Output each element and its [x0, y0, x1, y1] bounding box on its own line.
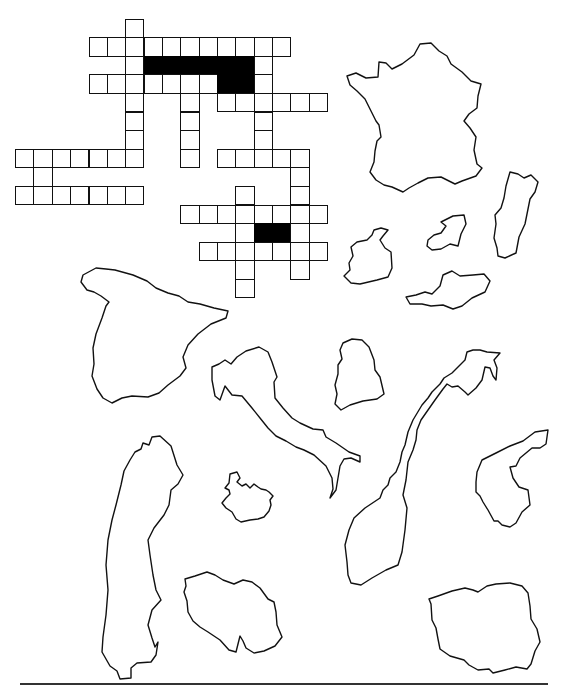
crossword-cell[interactable]: [125, 56, 144, 76]
crossword-cell[interactable]: [162, 74, 181, 94]
crossword-cell[interactable]: [254, 56, 273, 76]
crossword-cell[interactable]: [290, 186, 309, 206]
crossword-cell[interactable]: [52, 149, 71, 169]
crossword-cell[interactable]: [254, 93, 273, 113]
crossword-cell[interactable]: [70, 186, 89, 206]
crossword-cell[interactable]: [235, 93, 254, 113]
crossword-cell[interactable]: [125, 74, 144, 94]
crossword-cell[interactable]: [254, 205, 273, 225]
crossword-cell[interactable]: [180, 130, 199, 150]
crossword-cell[interactable]: [235, 37, 254, 57]
crossword-cell[interactable]: [125, 93, 144, 113]
crossword-cell[interactable]: [290, 149, 309, 169]
crossword-cell[interactable]: [235, 149, 254, 169]
crossword-cell[interactable]: [125, 130, 144, 150]
crossword-cell[interactable]: [125, 37, 144, 57]
crossword-cell[interactable]: [89, 37, 108, 57]
crossword-cell[interactable]: [199, 242, 218, 262]
crossword-cell[interactable]: [33, 149, 52, 169]
crossword-cell[interactable]: [254, 130, 273, 150]
crossword-cell[interactable]: [180, 93, 199, 113]
crossword-cell[interactable]: [254, 112, 273, 132]
crossword-cell[interactable]: [290, 223, 309, 243]
crossword-cell[interactable]: [290, 93, 309, 113]
crossword-cell[interactable]: [309, 205, 328, 225]
crossword-cell[interactable]: [235, 223, 254, 243]
crossword-cell[interactable]: [235, 260, 254, 280]
crossword-cell[interactable]: [235, 242, 254, 262]
crossword-cell[interactable]: [125, 112, 144, 132]
crossword-cell[interactable]: [107, 186, 126, 206]
iceland-outline: [222, 472, 273, 522]
sweden-outline: [102, 436, 183, 679]
crossword-cell[interactable]: [199, 37, 218, 57]
crossword-cell[interactable]: [52, 186, 71, 206]
crossword-cell[interactable]: [272, 205, 291, 225]
crossword-cell[interactable]: [290, 242, 309, 262]
crossword-cell[interactable]: [180, 74, 199, 94]
crossword-block-cell: [235, 74, 254, 94]
crossword-cell[interactable]: [217, 242, 236, 262]
crossword-cell[interactable]: [33, 167, 52, 187]
greece-outline: [184, 572, 282, 653]
crossword-cell[interactable]: [70, 149, 89, 169]
crossword-cell[interactable]: [144, 37, 163, 57]
bottom-rule-divider: [20, 683, 548, 685]
crossword-cell[interactable]: [217, 205, 236, 225]
crossword-cell[interactable]: [272, 37, 291, 57]
crossword-cell[interactable]: [180, 149, 199, 169]
crossword-cell[interactable]: [235, 205, 254, 225]
crossword-block-cell: [180, 56, 199, 76]
crossword-cell[interactable]: [180, 37, 199, 57]
crossword-block-cell: [162, 56, 181, 76]
crossword-block-cell: [217, 56, 236, 76]
crossword-cell[interactable]: [125, 186, 144, 206]
poland-outline: [429, 583, 540, 673]
crossword-block-cell: [199, 56, 218, 76]
crossword-cell[interactable]: [89, 186, 108, 206]
crossword-cell[interactable]: [107, 74, 126, 94]
crossword-cell[interactable]: [217, 37, 236, 57]
crossword-cell[interactable]: [125, 149, 144, 169]
crossword-block-cell: [217, 74, 236, 94]
crossword-cell[interactable]: [254, 149, 273, 169]
crossword-cell[interactable]: [290, 260, 309, 280]
crossword-cell[interactable]: [309, 242, 328, 262]
crossword-cell[interactable]: [309, 93, 328, 113]
crossword-cell[interactable]: [15, 186, 34, 206]
crossword-cell[interactable]: [199, 205, 218, 225]
crossword-cell[interactable]: [217, 93, 236, 113]
crossword-worksheet: [0, 0, 562, 692]
crossword-cell[interactable]: [272, 149, 291, 169]
crossword-cell[interactable]: [89, 74, 108, 94]
crossword-cell[interactable]: [15, 149, 34, 169]
crossword-cell[interactable]: [180, 112, 199, 132]
crossword-cell[interactable]: [254, 74, 273, 94]
crossword-cell[interactable]: [217, 149, 236, 169]
denmark-outline: [476, 430, 548, 527]
belgium-outline: [335, 339, 384, 410]
crossword-cell[interactable]: [290, 205, 309, 225]
crossword-block-cell: [144, 56, 163, 76]
crossword-cell[interactable]: [272, 242, 291, 262]
crossword-cell[interactable]: [162, 37, 181, 57]
crossword-cell[interactable]: [33, 186, 52, 206]
crossword-cell[interactable]: [180, 205, 199, 225]
crossword-block-cell: [254, 223, 273, 243]
crossword-cell[interactable]: [125, 19, 144, 39]
crossword-cell[interactable]: [107, 149, 126, 169]
crossword-block-cell: [272, 223, 291, 243]
crossword-cell[interactable]: [272, 93, 291, 113]
crossword-cell[interactable]: [235, 186, 254, 206]
crossword-cell[interactable]: [144, 74, 163, 94]
crossword-cell[interactable]: [89, 149, 108, 169]
crossword-block-cell: [235, 56, 254, 76]
crossword-cell[interactable]: [290, 167, 309, 187]
crossword-cell[interactable]: [107, 37, 126, 57]
crossword-cell[interactable]: [235, 279, 254, 299]
crossword-cell[interactable]: [199, 74, 218, 94]
crossword-grid: [0, 0, 562, 320]
crossword-cell[interactable]: [254, 37, 273, 57]
crossword-cell[interactable]: [254, 242, 273, 262]
